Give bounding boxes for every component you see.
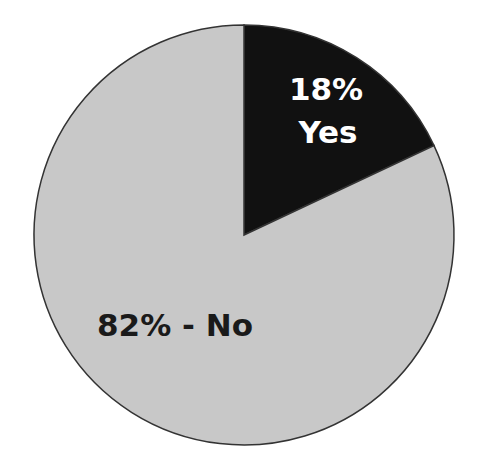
yes-name-label: Yes <box>297 114 357 150</box>
pie-chart: 18% Yes 82% - No <box>0 0 479 474</box>
pie-slices <box>34 25 454 445</box>
yes-percent-label: 18% <box>289 71 363 107</box>
no-label: 82% - No <box>97 307 253 343</box>
